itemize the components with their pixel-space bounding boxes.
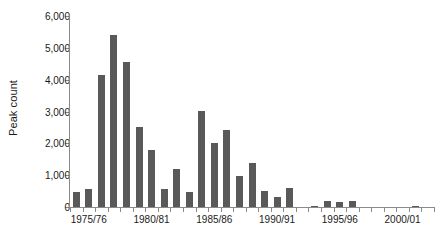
x-tick-label: 1995/96 — [322, 214, 358, 225]
x-tick-mark — [183, 208, 184, 212]
x-tick-mark — [421, 208, 422, 212]
x-tick-mark — [246, 208, 247, 212]
x-tick-label: 2000/01 — [385, 214, 421, 225]
x-tick-mark — [434, 208, 435, 212]
x-tick-mark — [283, 208, 284, 212]
x-tick-mark — [258, 208, 259, 212]
x-tick-mark — [120, 208, 121, 212]
x-tick-mark — [208, 208, 209, 212]
x-tick-mark — [145, 208, 146, 212]
x-tick-mark — [346, 208, 347, 212]
x-tick-mark — [133, 208, 134, 212]
x-tick-mark — [371, 208, 372, 212]
x-tick-mark — [108, 208, 109, 212]
x-tick-mark — [83, 208, 84, 212]
x-tick-label: 1985/86 — [196, 214, 232, 225]
x-tick-mark — [321, 208, 322, 212]
x-tick-mark — [70, 208, 71, 212]
x-tick-label: 1975/76 — [71, 214, 107, 225]
bar-chart: Peak count 01,0002,0003,0004,0005,0006,0… — [0, 0, 445, 240]
x-tick-mark — [196, 208, 197, 212]
x-tick-label: 1990/91 — [259, 214, 295, 225]
x-axis-ticks: 1975/761980/811985/861990/911995/962000/… — [0, 0, 445, 240]
x-tick-mark — [359, 208, 360, 212]
x-tick-mark — [233, 208, 234, 212]
x-tick-label: 1980/81 — [134, 214, 170, 225]
x-tick-mark — [170, 208, 171, 212]
x-tick-mark — [308, 208, 309, 212]
x-tick-mark — [296, 208, 297, 212]
x-tick-mark — [95, 208, 96, 212]
x-tick-mark — [271, 208, 272, 212]
x-tick-mark — [409, 208, 410, 212]
x-tick-mark — [158, 208, 159, 212]
x-tick-mark — [396, 208, 397, 212]
x-tick-mark — [384, 208, 385, 212]
x-tick-mark — [334, 208, 335, 212]
x-tick-mark — [221, 208, 222, 212]
